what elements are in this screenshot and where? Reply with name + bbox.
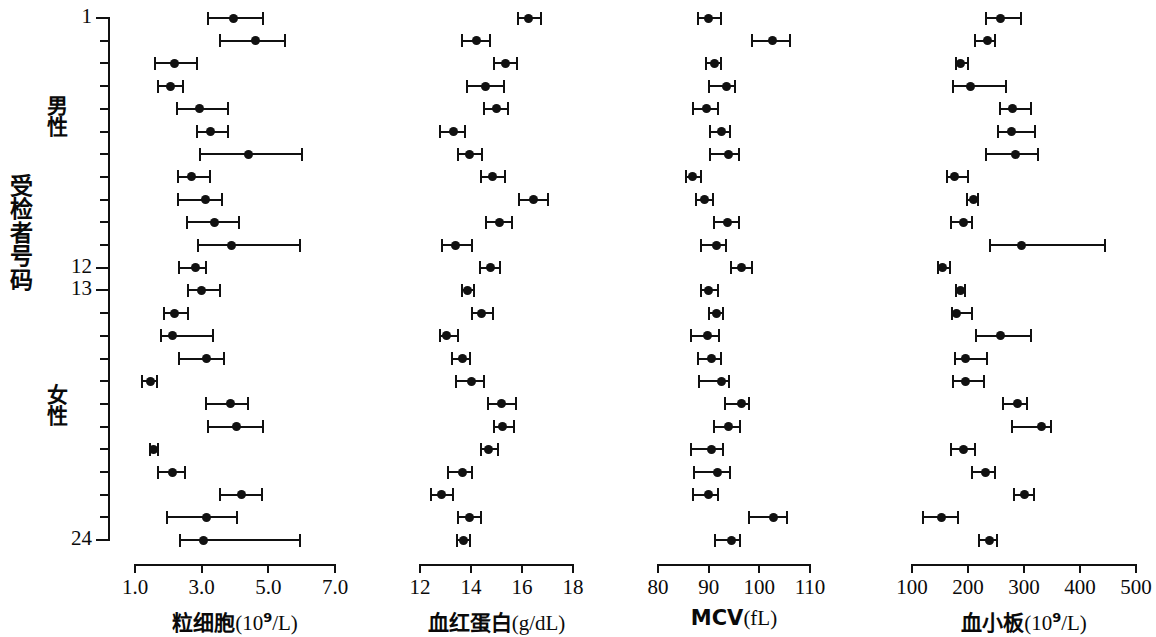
error-bar-cap-low <box>975 329 977 342</box>
y-axis-tick <box>96 539 108 541</box>
error-bar-cap-high <box>996 534 998 547</box>
error-bar-cap-high <box>1037 148 1039 161</box>
error-bar-line <box>998 131 1035 133</box>
y-axis-tick <box>100 312 108 314</box>
error-bar-cap-high <box>957 511 959 524</box>
data-point <box>961 377 970 386</box>
y-axis-tick-label: 13 <box>48 276 92 301</box>
error-bar-cap-high <box>994 34 996 47</box>
data-point <box>956 286 965 295</box>
y-axis-tick <box>96 267 108 269</box>
y-axis-tick <box>100 153 108 155</box>
error-bar-cap-low <box>966 193 968 206</box>
data-point <box>996 331 1005 340</box>
error-bar-cap-low <box>971 466 973 479</box>
data-point <box>952 309 961 318</box>
data-point <box>959 445 968 454</box>
data-point <box>985 536 994 545</box>
error-bar-cap-low <box>985 148 987 161</box>
data-point <box>1011 150 1020 159</box>
y-axis-tick <box>100 131 108 133</box>
y-axis-tick <box>100 403 108 405</box>
y-axis-tick <box>100 199 108 201</box>
y-axis-tick <box>100 358 108 360</box>
y-axis-tick <box>100 471 108 473</box>
x-axis-tick <box>967 564 969 573</box>
data-point <box>981 468 990 477</box>
error-bar-cap-high <box>1034 125 1036 138</box>
error-bar-cap-low <box>1002 397 1004 410</box>
error-bar-line <box>955 358 987 360</box>
y-axis-tick <box>100 380 108 382</box>
error-bar-cap-high <box>971 216 973 229</box>
y-axis-tick <box>100 221 108 223</box>
y-axis-tick-label: 24 <box>48 526 92 551</box>
data-point <box>950 172 959 181</box>
error-bar-cap-high <box>967 57 969 70</box>
x-axis-tick <box>1079 564 1081 573</box>
data-point <box>937 513 946 522</box>
y-axis-tick <box>96 17 108 19</box>
x-axis-title-unit2: /L) <box>1061 611 1087 635</box>
y-axis-tick <box>96 289 108 291</box>
error-bar-cap-low <box>954 352 956 365</box>
y-axis-tick <box>100 62 108 64</box>
error-bar-cap-low <box>922 511 924 524</box>
error-bar-cap-high <box>971 307 973 320</box>
x-axis-title-platelets: 血小板(109/L) <box>864 606 1156 636</box>
data-point <box>959 218 968 227</box>
x-axis-tick-label: 500 <box>1102 575 1156 600</box>
error-bar-cap-low <box>989 239 991 252</box>
data-point <box>956 59 965 68</box>
error-bar-cap-high <box>983 375 985 388</box>
error-bar-cap-low <box>1013 488 1015 501</box>
error-bar-cap-low <box>999 102 1001 115</box>
error-bar-cap-high <box>949 261 951 274</box>
y-axis-tick <box>100 176 108 178</box>
y-axis-tick <box>100 448 108 450</box>
x-axis-title-text: 血小板 <box>961 611 1024 635</box>
y-axis-tick-label: 1 <box>48 4 92 29</box>
error-bar-cap-low <box>952 375 954 388</box>
x-axis-title-exponent: 9 <box>1052 610 1061 625</box>
error-bar-cap-high <box>1005 80 1007 93</box>
error-bar-cap-low <box>950 216 952 229</box>
data-point <box>938 263 947 272</box>
data-point <box>1007 127 1016 136</box>
error-bar-cap-low <box>974 34 976 47</box>
y-axis-tick <box>100 85 108 87</box>
data-point <box>961 354 970 363</box>
error-bar-cap-low <box>1011 420 1013 433</box>
error-bar-cap-low <box>950 443 952 456</box>
error-bar-cap-high <box>1050 420 1052 433</box>
data-point <box>1013 399 1022 408</box>
data-point <box>1020 490 1029 499</box>
y-axis-line <box>108 17 110 541</box>
error-bar-cap-high <box>994 466 996 479</box>
error-bar-cap-high <box>1020 12 1022 25</box>
data-point <box>1008 104 1017 113</box>
error-bar-cap-high <box>967 170 969 183</box>
y-axis-tick <box>100 494 108 496</box>
error-bar-cap-low <box>997 125 999 138</box>
error-bar-cap-low <box>946 170 948 183</box>
data-point <box>966 82 975 91</box>
data-point <box>1037 422 1046 431</box>
error-bar-cap-low <box>978 534 980 547</box>
y-axis-tick <box>100 40 108 42</box>
y-axis-tick <box>100 516 108 518</box>
data-point <box>969 195 978 204</box>
data-point <box>1017 241 1026 250</box>
error-bar-cap-high <box>1030 102 1032 115</box>
y-axis-tick <box>100 426 108 428</box>
x-axis-tick <box>1023 564 1025 573</box>
error-bar-line <box>953 85 1006 87</box>
y-axis-tick <box>100 108 108 110</box>
error-bar-cap-high <box>974 443 976 456</box>
y-axis-tick <box>100 244 108 246</box>
error-bar-cap-high <box>1030 329 1032 342</box>
error-bar-line <box>990 244 1105 246</box>
error-bar-cap-low <box>952 80 954 93</box>
error-bar-cap-high <box>1026 397 1028 410</box>
